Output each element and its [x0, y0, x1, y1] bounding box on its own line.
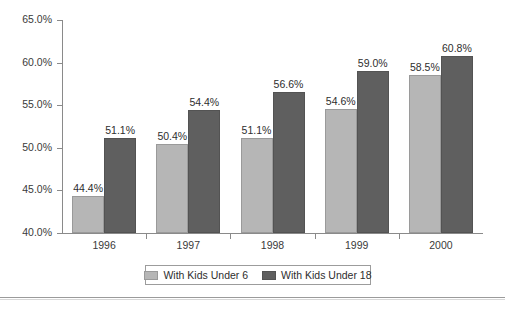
y-axis-tick-label: 60.0%	[22, 56, 52, 69]
bar-value-label: 59.0%	[349, 57, 397, 69]
bar-2000-series-1	[441, 56, 473, 233]
x-axis-category-label: 2000	[411, 239, 471, 252]
bar-value-label: 54.4%	[180, 96, 228, 108]
bar-1996-series-0	[72, 196, 104, 233]
bar-chart-figure: 40.0%45.0%50.0%55.0%60.0%65.0% 199619971…	[0, 0, 505, 312]
bottom-divider-line	[0, 297, 505, 298]
bar-1998-series-1	[273, 92, 305, 233]
chart-legend: With Kids Under 6 With Kids Under 18	[145, 265, 371, 285]
y-axis-tick-label: 40.0%	[22, 226, 52, 239]
bar-1999-series-1	[357, 71, 389, 233]
x-axis-category-label: 1998	[243, 239, 303, 252]
bar-1999-series-0	[325, 109, 357, 233]
bar-1997-series-1	[188, 110, 220, 233]
legend-item-with-kids-under-18: With Kids Under 18	[262, 269, 371, 281]
legend-label-series-1: With Kids Under 18	[281, 269, 371, 281]
bar-2000-series-0	[409, 75, 441, 233]
y-axis-tick-label: 55.0%	[22, 98, 52, 111]
x-axis-tick	[399, 234, 400, 239]
y-axis-tick-label: 50.0%	[22, 141, 52, 154]
y-axis-tick-label: 45.0%	[22, 183, 52, 196]
bar-1998-series-0	[241, 138, 273, 233]
x-axis-line	[62, 233, 483, 234]
y-axis-tick: 40.0%	[57, 233, 62, 234]
x-axis-tick	[146, 234, 147, 239]
bar-value-label: 51.1%	[96, 124, 144, 136]
legend-item-with-kids-under-6: With Kids Under 6	[144, 269, 248, 281]
y-axis-tick-label: 65.0%	[22, 13, 52, 26]
x-axis-tick	[315, 234, 316, 239]
x-axis-category-label: 1999	[327, 239, 387, 252]
bar-value-label: 60.8%	[433, 42, 481, 54]
legend-swatch-light-gray	[144, 271, 158, 280]
bar-value-label: 56.6%	[265, 78, 313, 90]
x-axis-tick	[230, 234, 231, 239]
x-axis-category-label: 1996	[74, 239, 134, 252]
bars-layer: 44.4%51.1%50.4%54.4%51.1%56.6%54.6%59.0%…	[62, 20, 483, 233]
x-axis-category-label: 1997	[158, 239, 218, 252]
legend-label-series-0: With Kids Under 6	[163, 269, 248, 281]
bottom-divider-line-shadow	[0, 299, 505, 300]
legend-swatch-dark-gray	[262, 271, 276, 280]
bar-1996-series-1	[104, 138, 136, 233]
bar-1997-series-0	[156, 144, 188, 233]
